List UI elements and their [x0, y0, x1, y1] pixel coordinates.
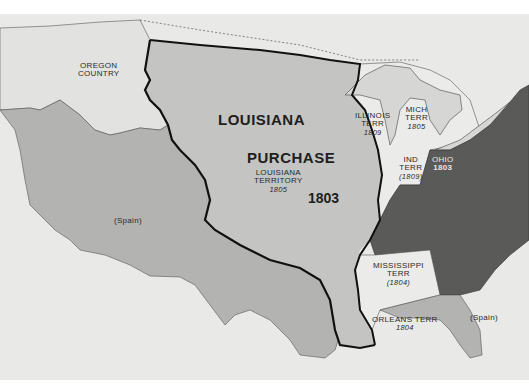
label-purchase: PURCHASE: [247, 150, 335, 166]
label-purchase-year: 1803: [308, 191, 339, 206]
label-indiana-territory: IND TERR (1809): [399, 156, 422, 181]
label-ohio-state: OHIO 1803: [432, 156, 454, 173]
label-oregon-country: OREGON COUNTRY: [78, 62, 120, 79]
label-orleans-territory: ORLEANS TERR 1804: [372, 316, 438, 332]
label-mississippi-territory: MISSISSIPPI TERR (1804): [373, 262, 424, 287]
label-spain-florida: (Spain): [470, 314, 498, 322]
label-country: COUNTRY: [78, 70, 120, 78]
label-ind-year: (1809): [399, 173, 422, 181]
label-orleans-year: 1804: [372, 324, 438, 332]
label-louisiana-terr-year: 1805: [254, 186, 303, 194]
label-mich-year: 1805: [405, 123, 428, 131]
label-louisiana: LOUISIANA: [218, 112, 305, 128]
label-ohio-year: 1803: [432, 164, 454, 172]
label-spain-west: (Spain): [114, 217, 142, 225]
label-illinois-year: 1809: [355, 129, 390, 137]
label-michigan-territory: MICH TERR 1805: [405, 106, 428, 131]
label-louisiana-territory: LOUISIANA TERRITORY 1805: [254, 169, 303, 194]
label-mississippi-year: (1804): [373, 279, 424, 287]
label-illinois-territory: ILLINOIS TERR 1809: [355, 112, 390, 137]
louisiana-purchase-map: OREGON COUNTRY LOUISIANA PURCHASE LOUISI…: [0, 14, 529, 380]
